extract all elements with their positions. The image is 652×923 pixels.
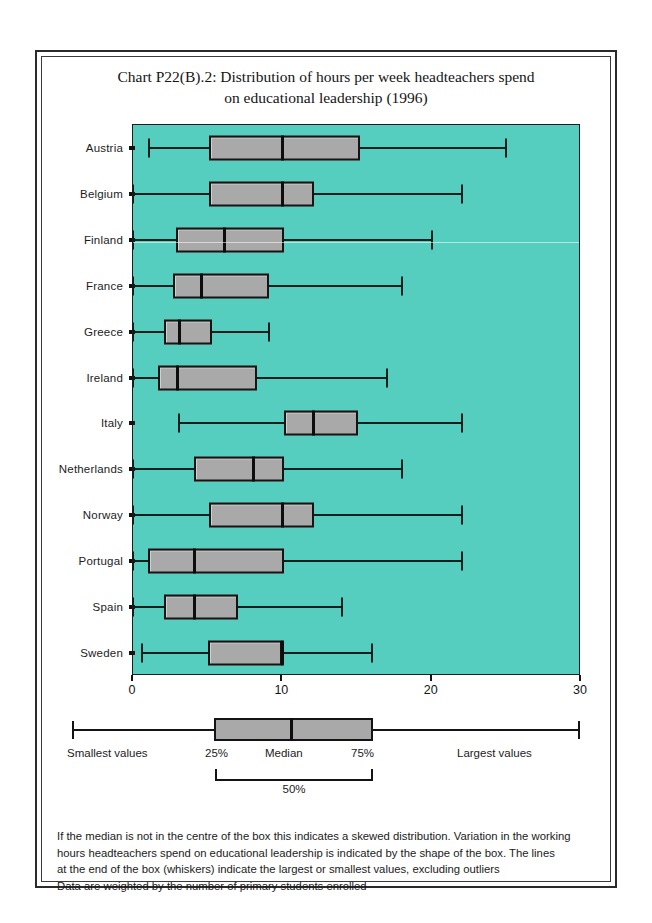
category-label-portugal: Portugal — [79, 555, 123, 567]
legend-label-largest: Largest values — [457, 747, 532, 759]
x-axis-tick — [131, 675, 133, 681]
boxplot-row: Austria — [133, 125, 579, 171]
boxplot-row: Greece — [133, 309, 579, 355]
boxplot-row: Netherlands — [133, 446, 579, 492]
median-line — [193, 549, 196, 574]
whisker-cap-low — [132, 368, 134, 387]
category-label-belgium: Belgium — [80, 188, 123, 200]
box-iqr — [164, 319, 212, 344]
category-label-sweden: Sweden — [80, 647, 123, 659]
category-label-norway: Norway — [83, 509, 123, 521]
legend-scale — [57, 717, 595, 743]
boxplot-row: France — [133, 263, 579, 309]
box-iqr — [284, 411, 359, 436]
legend-median-line — [290, 718, 293, 741]
figure-frame: Chart P22(B).2: Distribution of hours pe… — [35, 50, 617, 888]
box-iqr — [158, 365, 257, 390]
plot-area: AustriaBelgiumFinlandFranceGreeceIreland… — [132, 124, 580, 675]
boxplot-row: Portugal — [133, 538, 579, 584]
category-label-finland: Finland — [84, 234, 123, 246]
x-axis-tick — [579, 675, 581, 681]
legend-label-smallest: Smallest values — [67, 747, 148, 759]
whisker-cap-low — [132, 230, 134, 249]
median-line — [281, 181, 284, 206]
median-line — [200, 273, 203, 298]
whisker-cap-high — [386, 368, 388, 387]
whisker-cap-high — [371, 644, 373, 663]
box-iqr — [209, 135, 360, 160]
median-line — [312, 411, 315, 436]
boxplot-row: Sweden — [133, 630, 579, 676]
box-iqr — [148, 549, 284, 574]
category-label-austria: Austria — [86, 142, 123, 154]
chart-title: Chart P22(B).2: Distribution of hours pe… — [57, 66, 595, 108]
category-label-spain: Spain — [93, 601, 123, 613]
box-iqr — [173, 273, 269, 298]
whisker-cap-low — [132, 506, 134, 525]
box-iqr — [209, 503, 314, 528]
x-axis-tick-label: 10 — [274, 683, 288, 697]
median-line — [178, 319, 181, 344]
footnote-line-4: Data are weighted by the number of prima… — [57, 878, 595, 895]
whisker-cap-high — [461, 506, 463, 525]
median-line — [223, 227, 226, 252]
whisker-cap-high — [431, 230, 433, 249]
x-axis-tick-label: 0 — [129, 683, 136, 697]
category-axis-tick — [129, 146, 135, 150]
whisker-cap-low — [148, 138, 150, 157]
x-axis-tick — [280, 675, 282, 681]
boxplot-row: Finland — [133, 217, 579, 263]
chart-title-line-2: on educational leadership (1996) — [57, 87, 595, 108]
legend-brace — [215, 769, 373, 781]
boxplot-row: Spain — [133, 584, 579, 630]
whisker-cap-high — [401, 276, 403, 295]
whisker-cap-low — [132, 460, 134, 479]
chart-title-line-1: Chart P22(B).2: Distribution of hours pe… — [57, 66, 595, 87]
category-label-netherlands: Netherlands — [59, 463, 123, 475]
box-iqr — [164, 595, 237, 620]
whisker-cap-low — [132, 598, 134, 617]
footnote-line-3: at the end of the box (whiskers) indicat… — [57, 861, 595, 878]
whisker-cap-high — [461, 552, 463, 571]
whisker-cap-high — [268, 322, 270, 341]
boxplot-row: Belgium — [133, 171, 579, 217]
legend-cap-left — [72, 721, 74, 739]
whisker-cap-high — [461, 184, 463, 203]
median-line — [252, 457, 255, 482]
legend-box — [214, 718, 373, 741]
x-axis: 0102030 — [132, 675, 580, 705]
plot-inner: AustriaBelgiumFinlandFranceGreeceIreland… — [133, 125, 579, 674]
whisker-cap-low — [141, 644, 143, 663]
footnote: If the median is not in the centre of th… — [57, 828, 595, 894]
boxplot-row: Italy — [133, 400, 579, 446]
whisker-cap-high — [505, 138, 507, 157]
median-line — [176, 365, 179, 390]
category-label-france: France — [86, 280, 123, 292]
category-label-italy: Italy — [101, 417, 123, 429]
whisker-cap-low — [132, 552, 134, 571]
box-iqr — [208, 641, 283, 666]
box-iqr — [209, 181, 314, 206]
legend-label-50pct: 50% — [215, 783, 373, 795]
whisker-cap-low — [132, 184, 134, 203]
category-axis-tick — [129, 421, 135, 425]
legend-label-q3: 75% — [351, 747, 374, 759]
whisker-cap-low — [132, 276, 134, 295]
whisker-cap-low — [132, 322, 134, 341]
category-label-ireland: Ireland — [86, 372, 123, 384]
footnote-line-2: hours headteachers spend on educational … — [57, 845, 595, 862]
median-line — [193, 595, 196, 620]
median-line — [281, 135, 284, 160]
boxplot-row: Ireland — [133, 355, 579, 401]
whisker-cap-high — [341, 598, 343, 617]
boxplot-legend: Smallest values 25% Median 75% Largest v… — [57, 717, 595, 822]
legend-label-q1: 25% — [205, 747, 228, 759]
legend-cap-right — [578, 721, 580, 739]
x-axis-tick — [430, 675, 432, 681]
box-iqr — [176, 227, 284, 252]
legend-label-median: Median — [265, 747, 303, 759]
category-axis-tick — [129, 651, 135, 655]
whisker-cap-high — [461, 414, 463, 433]
whisker-cap-low — [178, 414, 180, 433]
x-axis-tick-label: 30 — [573, 683, 587, 697]
